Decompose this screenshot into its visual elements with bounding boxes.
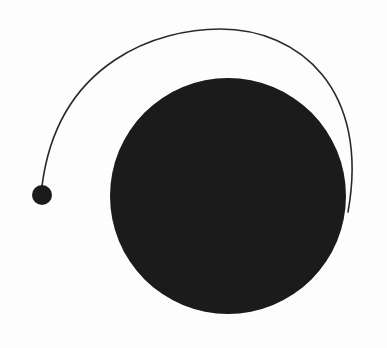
diagram-canvas xyxy=(0,0,387,348)
large-circle xyxy=(110,78,346,314)
orbit-diagram xyxy=(0,0,387,348)
small-dot xyxy=(32,185,52,205)
